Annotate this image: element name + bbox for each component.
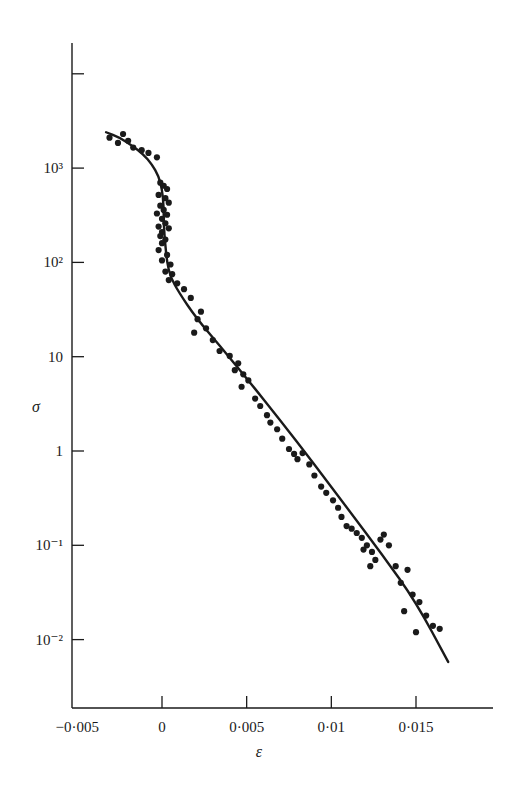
data-point	[227, 353, 233, 359]
data-point	[188, 295, 194, 301]
data-point	[130, 144, 136, 150]
y-tick-label: 10⁻²	[36, 632, 64, 648]
data-point	[423, 612, 429, 618]
axis-ticks: 10³10²10110⁻¹10⁻²−0·00500·0050·010·015	[36, 74, 434, 735]
data-point	[164, 212, 170, 218]
data-point	[413, 629, 419, 635]
data-point	[372, 557, 378, 563]
data-point	[330, 497, 336, 503]
data-point	[437, 626, 443, 632]
data-point	[154, 210, 160, 216]
data-point	[257, 403, 263, 409]
data-point	[157, 233, 163, 239]
data-point	[235, 360, 241, 366]
data-point	[240, 371, 246, 377]
data-point	[145, 150, 151, 156]
data-point	[359, 535, 365, 541]
data-point	[166, 277, 172, 283]
data-point	[120, 131, 126, 137]
x-tick-label: 0	[158, 719, 166, 735]
data-point	[294, 456, 300, 462]
data-point	[159, 257, 165, 263]
data-point	[156, 192, 162, 198]
data-point	[369, 549, 375, 555]
data-point	[264, 412, 270, 418]
x-axis-label: ε	[256, 743, 263, 760]
y-axis-label: σ	[32, 398, 41, 415]
data-point	[306, 461, 312, 467]
data-point	[159, 240, 165, 246]
data-point	[164, 252, 170, 258]
data-point	[191, 330, 197, 336]
x-tick-label: 0·015	[398, 719, 433, 735]
data-point	[167, 261, 173, 267]
data-point	[174, 280, 180, 286]
data-point	[386, 542, 392, 548]
data-point	[181, 286, 187, 292]
data-point	[169, 271, 175, 277]
data-point	[115, 140, 121, 146]
data-point	[106, 135, 112, 141]
data-point	[274, 426, 280, 432]
data-point	[139, 147, 145, 153]
x-tick-label: 0·005	[229, 719, 264, 735]
data-point	[416, 599, 422, 605]
y-tick-label: 10³	[44, 160, 64, 176]
data-point	[245, 377, 251, 383]
x-tick-label: 0·01	[318, 719, 346, 735]
data-point	[210, 337, 216, 343]
data-point	[354, 530, 360, 536]
axes	[72, 43, 493, 708]
data-point	[154, 154, 160, 160]
data-point	[318, 483, 324, 489]
data-point	[401, 608, 407, 614]
y-tick-label: 10	[48, 349, 63, 365]
data-point	[349, 526, 355, 532]
data-point	[311, 472, 317, 478]
data-point	[381, 531, 387, 537]
stress-strain-log-chart: 10³10²10110⁻¹10⁻²−0·00500·0050·010·015 ε…	[0, 0, 515, 791]
data-point	[238, 384, 244, 390]
data-point	[166, 225, 172, 231]
data-point	[156, 223, 162, 229]
y-tick-label: 1	[56, 443, 64, 459]
data-point	[216, 348, 222, 354]
data-points	[106, 131, 442, 635]
data-point	[404, 567, 410, 573]
data-point	[360, 547, 366, 553]
y-tick-label: 10²	[44, 254, 64, 270]
data-point	[286, 446, 292, 452]
data-point	[393, 563, 399, 569]
data-point	[367, 563, 373, 569]
data-point	[430, 623, 436, 629]
x-tick-label: −0·005	[56, 719, 99, 735]
data-point	[267, 420, 273, 426]
data-point	[323, 490, 329, 496]
data-point	[198, 309, 204, 315]
data-point	[203, 325, 209, 331]
data-point	[335, 505, 341, 511]
data-point	[299, 450, 305, 456]
y-tick-label: 10⁻¹	[36, 537, 63, 553]
data-point	[252, 395, 258, 401]
data-point	[156, 247, 162, 253]
data-point	[162, 268, 168, 274]
data-point	[232, 367, 238, 373]
data-point	[194, 316, 200, 322]
data-point	[279, 436, 285, 442]
data-point	[410, 592, 416, 598]
data-point	[164, 186, 170, 192]
data-point	[291, 451, 297, 457]
data-point	[398, 580, 404, 586]
data-point	[125, 138, 131, 144]
data-point	[166, 200, 172, 206]
data-point	[338, 514, 344, 520]
